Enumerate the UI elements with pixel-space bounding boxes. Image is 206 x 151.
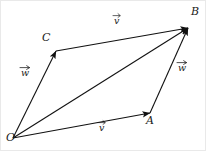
vector-glyph-v: v xyxy=(99,123,104,133)
vector-label-OA-text: v xyxy=(99,122,104,133)
vector-glyph-v: v xyxy=(114,16,119,26)
point-label-C: C xyxy=(42,32,50,43)
vector-label-OA: v xyxy=(99,123,104,133)
vector-glyph-w: w xyxy=(21,68,29,78)
vector-diagram-figure: O C A B w v xyxy=(0,0,206,151)
vector-label-OC-text: w xyxy=(21,67,29,78)
vector-label-CB-text: v xyxy=(114,15,119,26)
vector-line-CB xyxy=(56,28,188,51)
point-label-O: O xyxy=(6,132,15,143)
point-label-A: A xyxy=(146,115,154,126)
point-label-B: B xyxy=(191,6,199,17)
vector-label-AB: w xyxy=(178,63,186,73)
vector-label-AB-text: w xyxy=(178,62,186,73)
vector-label-CB: v xyxy=(114,16,119,26)
vector-glyph-w: w xyxy=(178,63,186,73)
vector-label-OC: w xyxy=(21,68,29,78)
